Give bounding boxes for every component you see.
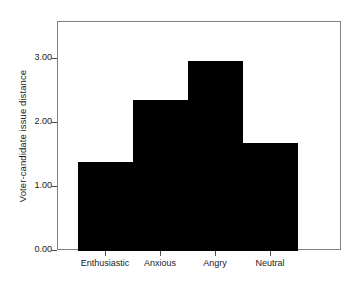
bar-anxious [133, 100, 188, 251]
x-tick-mark-anxious [160, 251, 161, 256]
x-tick-mark-enthusiastic [105, 251, 106, 256]
y-tick-mark-0 [51, 250, 57, 251]
y-tick-label-1: 1.00 [18, 181, 52, 190]
x-tick-mark-neutral [270, 251, 271, 256]
y-tick-label-2: 2.00 [18, 117, 52, 126]
bars-layer [58, 22, 342, 251]
x-tick-mark-angry [215, 251, 216, 256]
plot-area [57, 21, 341, 250]
y-tick-label-3: 3.00 [18, 53, 52, 62]
bar-enthusiastic [78, 162, 133, 251]
bar-neutral [243, 143, 298, 251]
x-tick-label-neutral: Neutral [225, 258, 315, 268]
bar-chart-figure: Voter-candidate issue distance 3.00 2.00… [0, 0, 357, 288]
y-tick-label-0: 0.00 [18, 245, 52, 254]
bar-angry [188, 61, 243, 251]
